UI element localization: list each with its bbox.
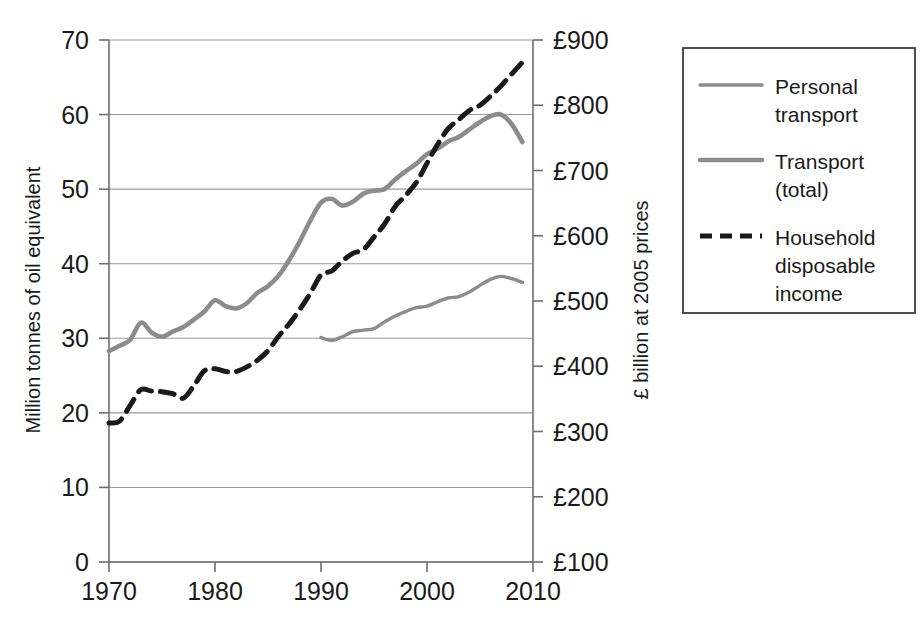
chart-figure: 010203040506070 £100£200£300£400£500£600… xyxy=(0,0,920,632)
right-axis-title: £ billion at 2005 prices xyxy=(630,200,652,399)
legend-label: disposable xyxy=(775,254,875,277)
y2-tick-label: £400 xyxy=(553,352,609,380)
y2-tick-label: £700 xyxy=(553,157,609,185)
bottom-axis-ticks xyxy=(109,562,533,572)
right-axis-tick-labels: £100£200£300£400£500£600£700£800£900 xyxy=(553,26,609,576)
legend-label: income xyxy=(775,282,843,305)
y2-tick-label: £500 xyxy=(553,287,609,315)
right-axis-ticks xyxy=(533,40,543,562)
y2-tick-label: £800 xyxy=(553,91,609,119)
y-axis-title: Million tonnes of oil equivalent xyxy=(22,166,44,433)
y2-tick-label: £300 xyxy=(553,418,609,446)
legend-label: Transport xyxy=(775,150,864,173)
y-tick-label: 30 xyxy=(61,324,89,352)
x-tick-label: 1990 xyxy=(293,577,349,605)
x-axis-tick-labels: 19701980199020002010 xyxy=(81,577,561,605)
legend-label: (total) xyxy=(775,178,829,201)
y-tick-label: 20 xyxy=(61,399,89,427)
series-line-transport-total xyxy=(109,114,522,351)
y2-tick-label: £100 xyxy=(553,548,609,576)
gridlines xyxy=(109,40,533,562)
y-tick-label: 0 xyxy=(75,548,89,576)
y2-tick-label: £600 xyxy=(553,222,609,250)
chart-legend: PersonaltransportTransport(total)Househo… xyxy=(683,48,915,313)
y-tick-label: 60 xyxy=(61,101,89,129)
left-axis-ticks xyxy=(99,40,109,562)
left-axis-tick-labels: 010203040506070 xyxy=(61,26,89,576)
axis-spines xyxy=(109,40,533,562)
line-chart: 010203040506070 £100£200£300£400£500£600… xyxy=(0,0,920,632)
x-tick-label: 2000 xyxy=(399,577,455,605)
legend-label: Household xyxy=(775,226,875,249)
x-tick-label: 2010 xyxy=(505,577,561,605)
legend-label: Personal xyxy=(775,75,858,98)
y2-tick-label: £200 xyxy=(553,483,609,511)
series-lines xyxy=(109,62,522,423)
y-tick-label: 10 xyxy=(61,473,89,501)
series-line-household-disposable-income xyxy=(109,62,522,423)
y2-tick-label: £900 xyxy=(553,26,609,54)
x-tick-label: 1980 xyxy=(187,577,243,605)
series-line-personal-transport xyxy=(321,276,522,340)
x-tick-label: 1970 xyxy=(81,577,137,605)
legend-label: transport xyxy=(775,103,858,126)
y-tick-label: 40 xyxy=(61,250,89,278)
y-tick-label: 70 xyxy=(61,26,89,54)
y-tick-label: 50 xyxy=(61,175,89,203)
